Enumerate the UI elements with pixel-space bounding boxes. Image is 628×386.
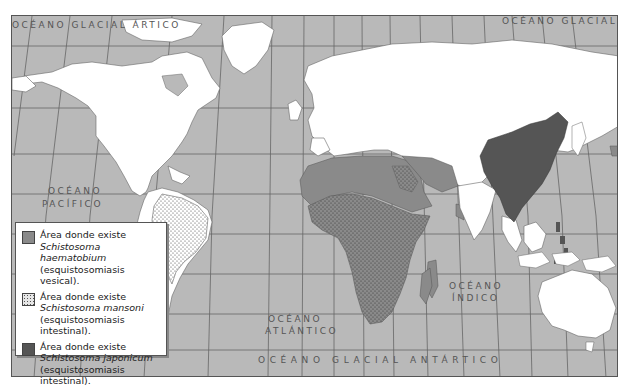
legend-item-japonicum: Área donde existe Schistosoma japonicum … bbox=[22, 341, 162, 386]
label-arctic-ocean-right: OCÉANO GLACIAL ÁRT bbox=[502, 16, 618, 26]
legend-disease: (esquistosomiasis intestinal). bbox=[40, 314, 162, 337]
legend-disease: (esquistosomiasis vesical). bbox=[40, 264, 162, 287]
label-atlantic-line2: ATLÁNTICO bbox=[265, 326, 338, 336]
legend-species: Schistosoma mansoni bbox=[40, 302, 162, 314]
japonicum-swatch bbox=[22, 343, 35, 356]
label-pacific-line1: OCÉANO bbox=[48, 186, 102, 196]
land-australia bbox=[538, 270, 616, 338]
label-pacific-line2: PACÍFICO bbox=[42, 199, 103, 209]
legend-disease: (esquistosomiasis intestinal). bbox=[40, 364, 162, 386]
map-legend: Área donde existe Schistosoma haematobiu… bbox=[15, 222, 167, 356]
label-indian-line2: ÍNDICO bbox=[452, 293, 499, 303]
label-arctic-ocean: OCÉANO GLACIAL ÁRTICO bbox=[12, 20, 181, 30]
mansoni-africa bbox=[308, 194, 430, 324]
haematobium-swatch bbox=[22, 231, 35, 244]
label-indian-line1: OCÉANO bbox=[449, 281, 503, 291]
label-antarctic-ocean: OCÉANO GLACIAL ANTÁRTICO bbox=[258, 355, 502, 365]
legend-item-haematobium: Área donde existe Schistosoma haematobiu… bbox=[22, 229, 162, 287]
label-atlantic-line1: OCÉANO bbox=[268, 314, 322, 324]
legend-label: Área donde existe bbox=[40, 341, 162, 353]
legend-item-mansoni: Área donde existe Schistosoma mansoni (e… bbox=[22, 291, 162, 337]
mansoni-swatch bbox=[22, 293, 35, 306]
legend-label: Área donde existe bbox=[40, 229, 162, 241]
legend-label: Área donde existe bbox=[40, 291, 162, 303]
legend-species: Schistosoma japonicum bbox=[40, 352, 162, 364]
legend-species: Schistosoma haematobium bbox=[40, 241, 162, 264]
